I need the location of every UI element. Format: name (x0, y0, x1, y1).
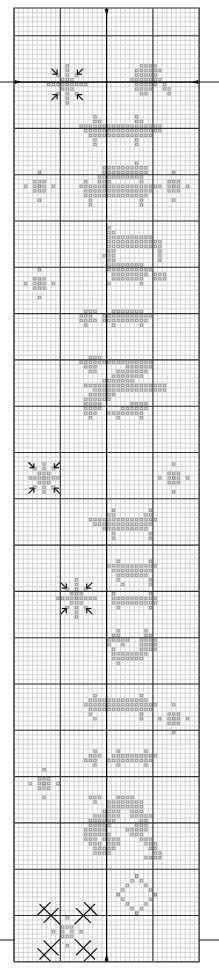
cross-stitch-chart (0, 0, 219, 975)
